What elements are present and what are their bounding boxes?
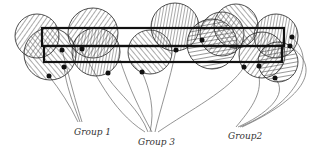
balloons bbox=[15, 3, 298, 82]
balloon-diagram bbox=[0, 0, 326, 155]
label-group-3: Group 3 bbox=[138, 137, 175, 147]
label-group-1: Group 1 bbox=[74, 127, 111, 137]
balloon bbox=[72, 28, 120, 76]
label-group-2: Group2 bbox=[228, 131, 262, 141]
balloon bbox=[15, 14, 59, 58]
